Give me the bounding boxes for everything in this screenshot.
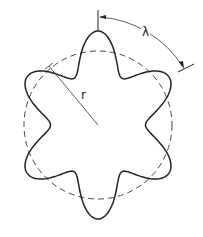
wavelength-tick-right <box>178 64 194 72</box>
wavy-circle-diagram <box>0 0 203 237</box>
radius-line <box>49 66 98 125</box>
radius-label: r <box>81 89 86 101</box>
wavelength-label: λ <box>141 26 150 38</box>
arrowhead-left <box>99 15 106 19</box>
arrowhead-right <box>179 61 184 69</box>
radius-end-tick <box>45 63 53 69</box>
